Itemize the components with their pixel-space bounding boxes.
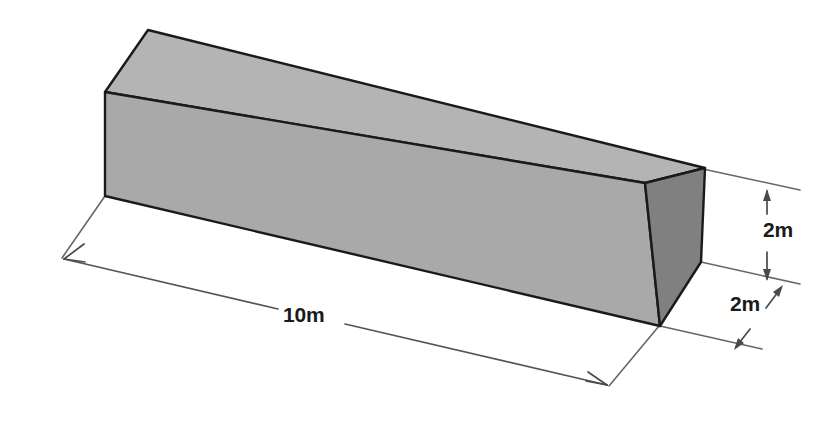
length-dimension-segment-left — [64, 259, 278, 309]
length-arrow-end — [586, 372, 607, 385]
prism-figure — [0, 0, 840, 424]
extension-line-lower-right — [660, 326, 762, 349]
diagram-canvas: 10m 2m 2m — [0, 0, 840, 424]
extension-line-bottom-right — [609, 326, 659, 386]
depth-dimension-label: 2m — [730, 292, 760, 316]
extension-line-left — [62, 196, 105, 258]
prism-body — [105, 30, 705, 326]
length-dimension-label: 10m — [283, 303, 324, 327]
length-arrow-start — [64, 244, 85, 262]
depth-arrow-upper — [773, 285, 783, 297]
extension-line-top-right — [703, 169, 800, 190]
length-dimension-segment-right — [345, 324, 607, 385]
extension-line-middle-right — [701, 262, 800, 284]
height-arrow-top — [763, 189, 771, 201]
height-arrow-bottom — [763, 269, 771, 281]
height-dimension-label: 2m — [763, 218, 793, 242]
